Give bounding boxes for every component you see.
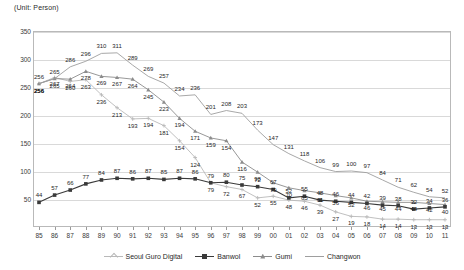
- x-tick-label: 08: [395, 232, 402, 239]
- data-point: [209, 181, 213, 185]
- x-tick-mark: [148, 227, 149, 230]
- data-label: 98: [254, 176, 261, 182]
- data-label: 99: [332, 162, 339, 168]
- data-label: 54: [426, 187, 433, 193]
- data-label: 56: [332, 200, 339, 206]
- data-label: 39: [317, 209, 324, 215]
- data-label: 44: [395, 206, 402, 212]
- x-tick-label: 01: [285, 232, 292, 239]
- legend-label: Banwol: [217, 253, 240, 260]
- data-label: 86: [192, 169, 199, 175]
- y-tick-label: 100: [1, 168, 31, 175]
- x-tick-label: 07: [379, 232, 386, 239]
- data-label: 79: [207, 173, 214, 179]
- data-label: 256: [34, 88, 44, 94]
- x-tick-mark: [211, 227, 212, 230]
- data-point: [318, 203, 322, 207]
- legend-item-seoul-guro-digital[interactable]: Seoul Guro Digital: [104, 252, 183, 260]
- data-point: [271, 194, 275, 198]
- data-label: 256: [34, 74, 44, 80]
- data-point: [100, 178, 104, 182]
- data-label: 44: [410, 206, 417, 212]
- data-label: 245: [143, 94, 153, 100]
- data-point: [193, 177, 197, 181]
- data-label: 62: [410, 182, 417, 188]
- data-label: 154: [221, 145, 231, 151]
- unit-label: (Unit: Person): [14, 4, 59, 11]
- y-tick-label: 300: [1, 56, 31, 63]
- x-tick-label: 95: [192, 232, 199, 239]
- x-tick-label: 03: [316, 232, 323, 239]
- data-point: [84, 69, 88, 73]
- data-label: 87: [145, 168, 152, 174]
- x-tick-mark: [383, 227, 384, 230]
- x-tick-label: 85: [35, 232, 42, 239]
- x-tick-mark: [336, 227, 337, 230]
- y-axis: 50100150200250300350: [0, 31, 31, 227]
- data-label: 296: [81, 51, 91, 57]
- legend-item-gumi[interactable]: Gumi: [253, 252, 292, 260]
- data-label: 116: [237, 166, 247, 172]
- legend-item-banwol[interactable]: Banwol: [195, 252, 240, 260]
- data-label: 267: [112, 81, 122, 87]
- x-tick-label: 88: [82, 232, 89, 239]
- data-label: 70: [286, 192, 293, 198]
- data-label: 264: [65, 83, 75, 89]
- legend-item-changwon[interactable]: Changwon: [305, 252, 360, 260]
- data-point: [427, 218, 431, 222]
- x-tick-mark: [445, 227, 446, 230]
- data-label: 194: [143, 122, 153, 128]
- data-label: 85: [161, 169, 168, 175]
- data-point: [256, 185, 260, 189]
- x-axis: 8586878889909192939495969798990001020304…: [33, 232, 451, 244]
- data-label: 45: [379, 206, 386, 212]
- x-tick-mark: [86, 227, 87, 230]
- data-label: 55: [301, 186, 308, 192]
- data-point: [225, 180, 229, 184]
- data-label: 131: [284, 144, 294, 150]
- data-label: 38: [395, 196, 402, 202]
- data-label: 72: [223, 191, 230, 197]
- data-label: 75: [239, 175, 246, 181]
- data-label: 80: [223, 172, 230, 178]
- legend-swatch: [195, 252, 214, 260]
- data-point: [443, 218, 447, 222]
- data-point: [68, 188, 72, 192]
- data-point: [147, 176, 151, 180]
- data-label: 124: [190, 162, 200, 168]
- x-tick-mark: [273, 227, 274, 230]
- x-tick-mark: [133, 227, 134, 230]
- data-point: [256, 196, 260, 200]
- data-label: 19: [348, 220, 355, 226]
- x-tick-mark: [101, 227, 102, 230]
- data-point: [131, 177, 135, 181]
- x-tick-mark: [429, 227, 430, 230]
- y-tick-label: 350: [1, 28, 31, 35]
- data-label: 87: [176, 168, 183, 174]
- data-point: [256, 170, 260, 174]
- legend-swatch: [305, 252, 324, 260]
- data-point: [365, 215, 369, 219]
- x-tick-mark: [226, 227, 227, 230]
- data-point: [115, 176, 119, 180]
- data-label: 236: [96, 99, 106, 105]
- data-label: 84: [98, 170, 105, 176]
- legend-swatch: [104, 252, 123, 260]
- x-tick-label: 93: [160, 232, 167, 239]
- data-label: 181: [159, 130, 169, 136]
- data-label: 55: [270, 200, 277, 206]
- x-tick-label: 96: [207, 232, 214, 239]
- data-point: [349, 214, 353, 218]
- x-tick-label: 86: [51, 232, 58, 239]
- legend-swatch: [253, 252, 272, 260]
- data-point: [240, 183, 244, 187]
- data-point: [84, 182, 88, 186]
- data-label: 44: [36, 192, 43, 198]
- data-label: 159: [206, 142, 216, 148]
- data-label: 234: [175, 86, 185, 92]
- x-tick-label: 11: [442, 232, 449, 239]
- data-label: 18: [364, 221, 371, 227]
- x-tick-mark: [70, 227, 71, 230]
- x-tick-mark: [367, 227, 368, 230]
- x-tick-mark: [55, 227, 56, 230]
